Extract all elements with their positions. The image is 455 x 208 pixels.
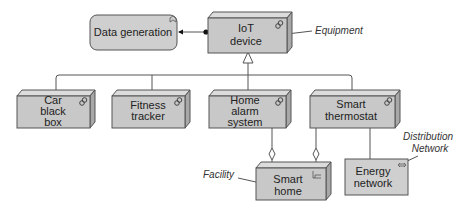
function-label: Data generation	[94, 26, 172, 38]
node-label-line1: IoT	[238, 22, 254, 34]
node-fitness-tracker[interactable]: Fitness tracker	[112, 90, 190, 128]
aggregation-diamond-1	[269, 148, 275, 160]
node-smart-home[interactable]: Smart home	[256, 162, 331, 200]
function-data-generation[interactable]: Data generation	[90, 15, 177, 50]
specialization-arrowhead	[243, 52, 253, 63]
node-label-line2: device	[230, 35, 262, 47]
archimate-diagram: Data generation IoT device Car black box…	[0, 0, 455, 208]
node-label-line2: home	[274, 185, 302, 197]
node-home-alarm-system[interactable]: Home alarm system	[209, 90, 291, 128]
node-label-line2: network	[354, 177, 393, 189]
annotation-distribution-line2: Network	[412, 143, 450, 154]
node-energy-network[interactable]: Energy network	[345, 159, 408, 195]
annotation-facility: Facility	[203, 169, 235, 180]
node-label-line3: system	[228, 116, 263, 128]
node-car-black-box[interactable]: Car black box	[17, 90, 95, 128]
node-iot-device[interactable]: IoT device	[208, 12, 292, 53]
node-label-line1: Energy	[356, 165, 391, 177]
node-label-line3: box	[44, 116, 62, 128]
node-label-line1: Smart	[273, 173, 302, 185]
node-label-line1: Smart	[336, 98, 365, 110]
node-label-line2: thermostat	[325, 110, 377, 122]
node-label-line2: tracker	[131, 110, 165, 122]
annotation-equipment: Equipment	[315, 25, 364, 36]
annotation-distribution-line1: Distribution	[403, 131, 453, 142]
aggregation-diamond-2	[313, 148, 319, 160]
assignment-arrowhead	[178, 30, 183, 35]
node-smart-thermostat[interactable]: Smart thermostat	[310, 90, 400, 128]
